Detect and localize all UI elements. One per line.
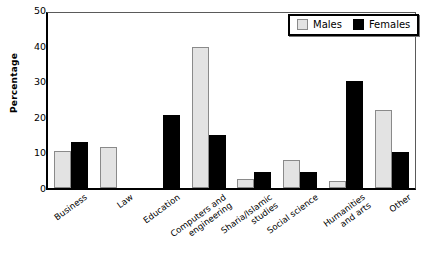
legend-swatch-males bbox=[297, 19, 308, 30]
x-tick-label-1: Law bbox=[116, 192, 136, 210]
bar-females-0 bbox=[71, 142, 88, 188]
x-tick-label-7: Other bbox=[387, 192, 413, 214]
y-tick-label-30: 30 bbox=[6, 77, 46, 87]
bar-females-2 bbox=[163, 115, 180, 188]
bar-group bbox=[232, 13, 278, 188]
legend-item-males: Males bbox=[297, 19, 342, 30]
bar-groups bbox=[48, 13, 415, 188]
y-tick-label-50: 50 bbox=[6, 6, 46, 16]
bar-females-3 bbox=[209, 135, 226, 188]
plot-area bbox=[46, 12, 416, 190]
x-tick-label-6: Humanitiesand arts bbox=[321, 192, 372, 237]
bar-females-7 bbox=[392, 152, 409, 188]
bar-chart: Percentage 50 40 30 20 10 0 BusinessLawE… bbox=[0, 0, 435, 267]
bar-males-4 bbox=[237, 179, 254, 188]
bar-group bbox=[323, 13, 369, 188]
bar-females-5 bbox=[300, 172, 317, 188]
bar-males-1 bbox=[100, 147, 117, 188]
y-tick-label-20: 20 bbox=[6, 113, 46, 123]
bar-group bbox=[186, 13, 232, 188]
bar-group bbox=[48, 13, 94, 188]
bar-females-6 bbox=[346, 81, 363, 188]
x-tick-label-5: Social science bbox=[265, 192, 320, 236]
bar-males-5 bbox=[283, 160, 300, 188]
bar-males-0 bbox=[54, 151, 71, 188]
bar-males-6 bbox=[329, 181, 346, 188]
y-tick-label-10: 10 bbox=[6, 148, 46, 158]
legend: Males Females bbox=[288, 14, 419, 36]
legend-label-males: Males bbox=[313, 20, 342, 30]
x-tick-label-0: Business bbox=[52, 192, 89, 222]
legend-item-females: Females bbox=[353, 19, 410, 30]
legend-swatch-females bbox=[353, 19, 364, 30]
bar-group bbox=[94, 13, 140, 188]
y-tick-label-0: 0 bbox=[6, 184, 46, 194]
bar-males-7 bbox=[375, 110, 392, 188]
bar-group bbox=[369, 13, 415, 188]
bar-group bbox=[140, 13, 186, 188]
x-tick-label-2: Education bbox=[141, 192, 182, 225]
legend-label-females: Females bbox=[369, 20, 410, 30]
bar-females-4 bbox=[254, 172, 271, 188]
y-tick-label-40: 40 bbox=[6, 42, 46, 52]
bar-males-3 bbox=[192, 47, 209, 188]
bar-group bbox=[277, 13, 323, 188]
x-axis-labels: BusinessLawEducationComputers andenginee… bbox=[46, 192, 416, 267]
